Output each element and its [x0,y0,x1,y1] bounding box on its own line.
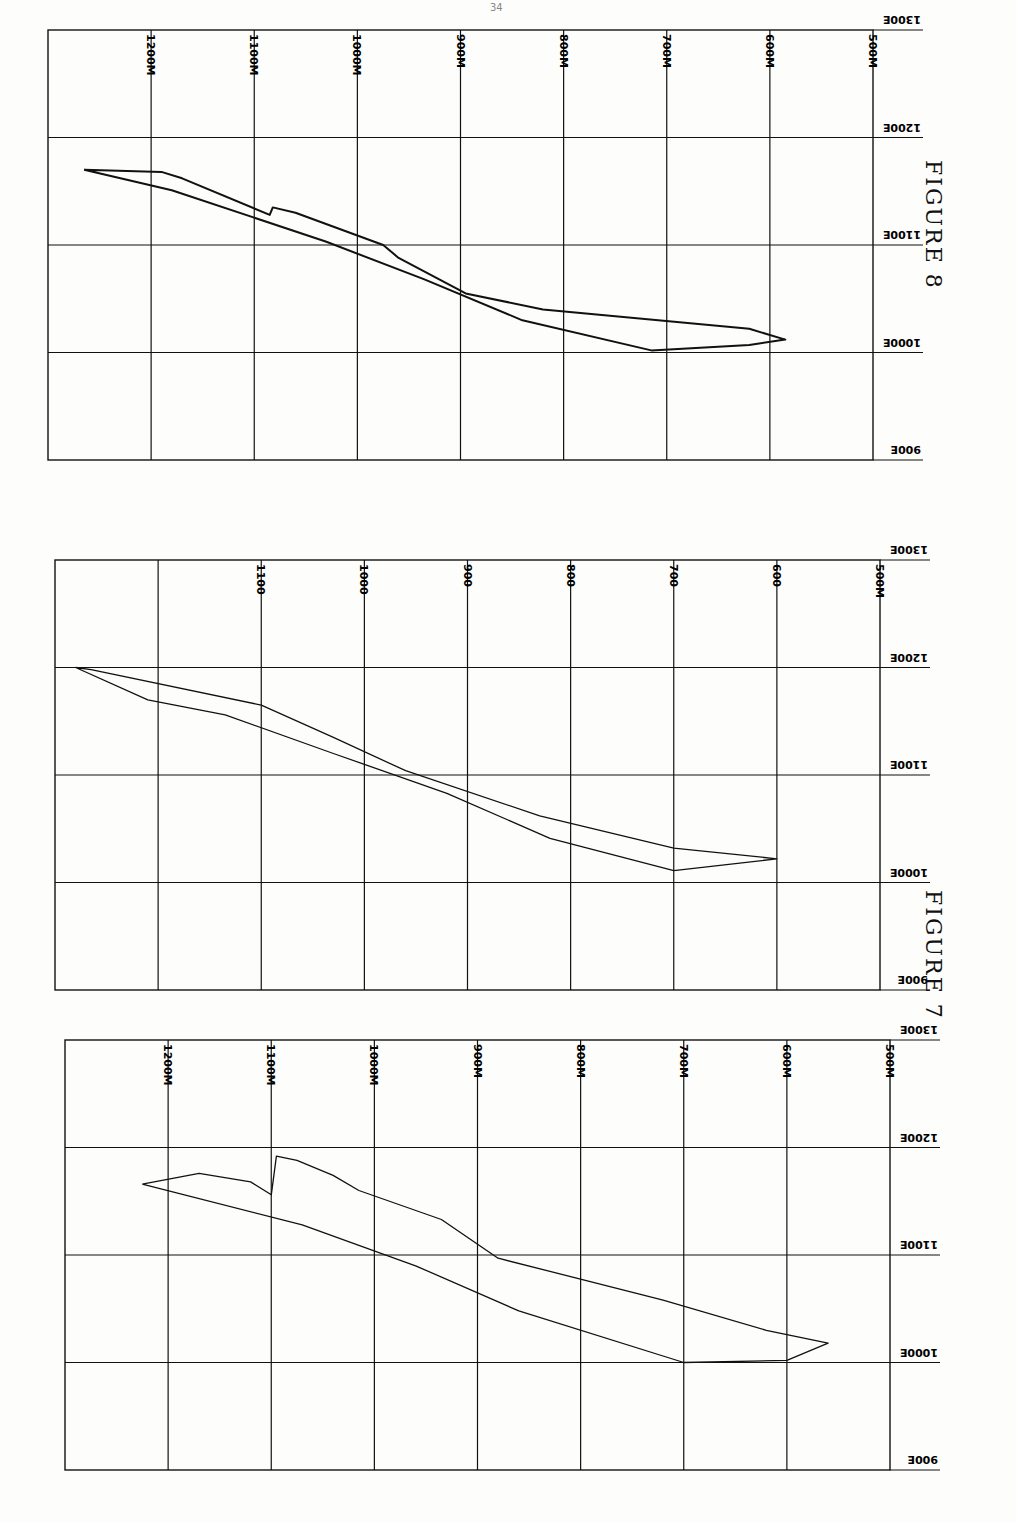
elevation-tick-label: 800 [564,564,577,587]
easting-tick-label: 900E [891,443,921,456]
elevation-tick-label: 500M [866,34,879,68]
elevation-tick-label: 1000 [357,564,370,595]
elevation-tick-label: 800M [557,34,570,68]
easting-tick-label: 1100E [900,1238,938,1251]
easting-tick-label: 1100E [883,228,921,241]
easting-tick-label: 1000E [900,1346,938,1359]
easting-tick-label: 1000E [883,336,921,349]
elevation-tick-label: 800M [574,1044,587,1078]
elevation-tick-label: 600M [780,1044,793,1078]
easting-tick-label: 1200E [890,651,928,664]
figure-7-caption: FIGURE 7 [921,890,946,1020]
easting-tick-label: 1300E [900,1023,938,1036]
elevation-tick-label: 500M [873,564,886,598]
figure-7-lower-chart: 1200M1100M1000M900M800M700M600M500M1300E… [65,1040,960,1470]
elevation-tick-label: 1000M [367,1044,380,1086]
chart-svg: 1200M1100M1000M900M800M700M600M500M1300E… [48,30,943,460]
elevation-tick-label: 1100M [247,34,260,76]
elevation-tick-label: 900 [461,564,474,587]
elevation-tick-label: 900M [454,34,467,68]
elevation-tick-label: 600M [763,34,776,68]
page-number: 34 [490,2,503,13]
easting-tick-label: 1100E [890,758,928,771]
elevation-tick-label: 600 [770,564,783,587]
elevation-tick-label: 700 [667,564,680,587]
easting-tick-label: 900E [908,1453,938,1466]
chart-svg: 1200M1100M1000M900M800M700M600M500M1300E… [65,1040,960,1470]
data-outline [84,170,785,351]
easting-tick-label: 1200E [900,1131,938,1144]
easting-tick-label: 1300E [890,543,928,556]
elevation-tick-label: 700M [660,34,673,68]
chart-svg: 11001000900800700600500M1300E1200E1100E1… [55,560,950,990]
elevation-tick-label: 1100M [264,1044,277,1086]
elevation-tick-label: 700M [677,1044,690,1078]
easting-tick-label: 1000E [890,866,928,879]
elevation-tick-label: 900M [471,1044,484,1078]
elevation-tick-label: 500M [883,1044,896,1078]
elevation-tick-label: 1200M [144,34,157,76]
data-outline [76,668,777,871]
elevation-tick-label: 1100 [254,564,267,595]
figure-7-upper-chart: 11001000900800700600500M1300E1200E1100E1… [55,560,950,990]
data-outline [142,1156,828,1362]
figure-8-chart: 1200M1100M1000M900M800M700M600M500M1300E… [48,30,943,460]
figure-8-caption: FIGURE 8 [921,160,946,290]
easting-tick-label: 1300E [883,13,921,26]
elevation-tick-label: 1000M [350,34,363,76]
elevation-tick-label: 1200M [161,1044,174,1086]
easting-tick-label: 1200E [883,121,921,134]
